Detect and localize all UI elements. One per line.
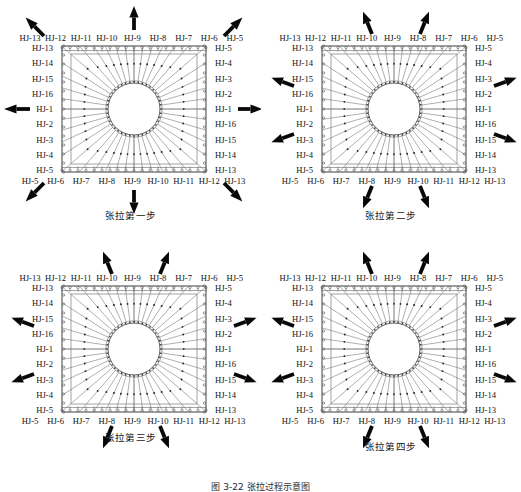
ring-node [412, 329, 414, 331]
cable-label: HJ-5 [282, 176, 299, 186]
ring-node [155, 364, 157, 366]
cable-node [429, 390, 431, 392]
cable-node [181, 379, 183, 381]
ring-node [159, 100, 161, 102]
cable-label: HJ-2 [296, 359, 313, 369]
ring-node [114, 367, 116, 369]
cable-label: HJ-8 [150, 33, 167, 43]
ring-node [393, 321, 395, 323]
anchor-node [329, 169, 331, 171]
cable-node [347, 68, 349, 70]
ring-node [142, 134, 144, 136]
anchor-node [203, 126, 205, 128]
anchor-node [109, 409, 111, 411]
cable-node [97, 150, 99, 152]
ring-node [152, 367, 154, 369]
cable-label: HJ-1 [475, 344, 492, 354]
cable-node [83, 101, 85, 103]
cable-node [105, 65, 107, 67]
anchor-node [441, 46, 443, 48]
arrow-right-upper [493, 317, 516, 327]
cable-node [120, 63, 122, 65]
cable-node [347, 308, 349, 310]
cable-label: HJ-6 [47, 416, 64, 426]
ring-node [397, 81, 399, 83]
ring-node [385, 134, 387, 136]
cable-node [373, 392, 375, 394]
cable-label: HJ-5 [486, 273, 503, 283]
panel-step-3: HJ-13HJ-12HJ-11HJ-10HJ-9HJ-8HJ-7HJ-6HJ-5… [0, 240, 261, 486]
anchor-node [463, 375, 465, 377]
panel-caption-2: 张拉第二步 [260, 208, 521, 222]
cable-node [113, 392, 115, 394]
cable-label: HJ-4 [296, 150, 313, 160]
cable-label: HJ-4 [36, 150, 53, 160]
cable-node [380, 393, 382, 395]
ring-node [419, 117, 421, 119]
cable-label: HJ-9 [124, 33, 141, 43]
ring-node [109, 121, 111, 123]
cable-label: HJ-3 [36, 135, 53, 145]
anchor-node [457, 169, 459, 171]
cable-node [113, 64, 115, 66]
anchor-node [149, 409, 151, 411]
cable-label: HJ-14 [215, 150, 237, 160]
panel-caption-4: 张拉第四步 [260, 439, 521, 453]
cable-node [161, 391, 163, 393]
anchor-node [425, 409, 427, 411]
cable-label: HJ-15 [475, 375, 496, 385]
cable-node [429, 306, 431, 308]
anchor-node [197, 46, 199, 48]
ring-node [420, 344, 422, 346]
cable-label: HJ-13 [215, 165, 236, 175]
diagram-body [61, 45, 207, 173]
anchor-node [463, 126, 465, 128]
anchor-node [337, 46, 339, 48]
cable-node [183, 115, 185, 117]
anchor-node [463, 312, 465, 314]
arrow-top-right-inner [418, 12, 429, 35]
anchor-node [62, 81, 64, 83]
anchor-node [62, 384, 64, 386]
cable-node [421, 391, 423, 393]
cable-label: HJ-9 [384, 176, 401, 186]
ring-node [366, 348, 368, 350]
ring-node [367, 357, 369, 359]
ring-node [420, 352, 422, 354]
ring-node [409, 130, 411, 132]
cable-label: HJ-12 [45, 273, 66, 283]
cable-node [343, 115, 345, 117]
cable-node [344, 334, 346, 336]
ring-node [393, 135, 395, 137]
ring-node [117, 326, 119, 328]
cable-label: HJ-1 [475, 104, 492, 114]
cable-label: HJ-7 [333, 416, 350, 426]
ring-node [142, 82, 144, 84]
anchor-node [117, 169, 119, 171]
cable-label: HJ-13 [215, 405, 236, 415]
ring-node [160, 112, 162, 114]
ring-node [125, 82, 127, 84]
ring-node [121, 84, 123, 86]
cable-node [127, 63, 129, 65]
panel-step-2: HJ-13HJ-12HJ-11HJ-10HJ-9HJ-8HJ-7HJ-6HJ-5… [260, 0, 521, 246]
cable-label: HJ-14 [475, 390, 497, 400]
ring-node [157, 336, 159, 338]
cable-label: HJ-15 [475, 135, 496, 145]
cable-node [365, 305, 367, 307]
anchor-node [203, 90, 205, 92]
ring-node [415, 124, 417, 126]
anchor-node [369, 169, 371, 171]
ring-node [406, 372, 408, 374]
ring-node [371, 92, 373, 94]
cable-node [87, 308, 89, 310]
ring-node [117, 370, 119, 372]
anchor-node [149, 286, 151, 288]
anchor-node [409, 286, 411, 288]
cable-node [182, 130, 184, 132]
cable-node [387, 63, 389, 65]
anchor-node [69, 409, 71, 411]
cable-node [84, 94, 86, 96]
ring-node [159, 357, 161, 359]
cable-label: HJ-7 [175, 33, 192, 43]
